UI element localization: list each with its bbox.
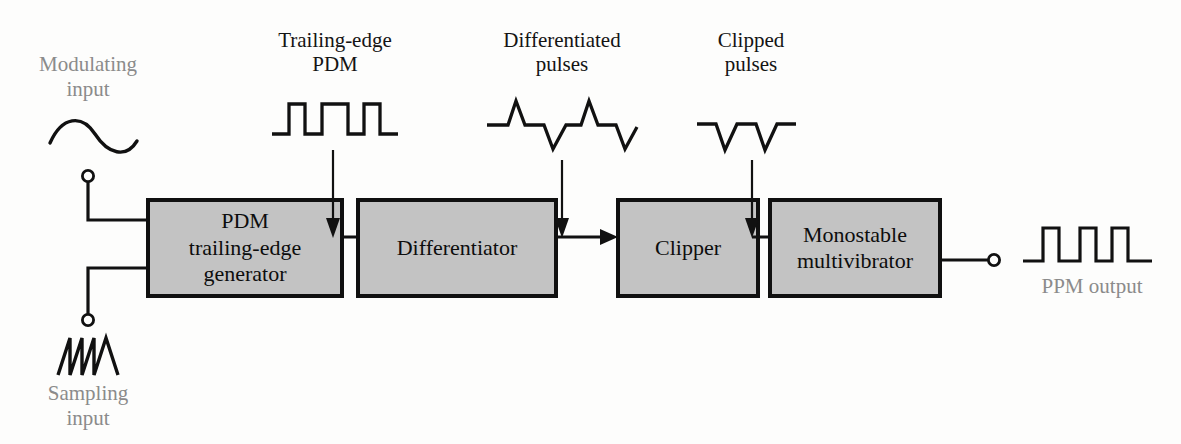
trailing-edge-pdm-label: Trailing-edge PDM [252,28,418,77]
sampling-input-terminal [82,314,93,325]
block-differentiator[interactable] [358,200,556,296]
block-diagram-canvas: Modulating input Sampling input Trailing… [0,0,1181,444]
modulating-input-terminal [82,170,93,181]
sampling-input-label: Sampling input [13,381,163,431]
clipped-pulses-waveform-icon [697,124,796,150]
differentiated-pulses-label: Differentiated pulses [472,28,652,77]
block-clipper[interactable] [618,200,758,296]
link-differentiator-to-clipper-arrowhead [600,229,618,245]
ppm-output-label: PPM output [1018,274,1166,299]
trailing-edge-pdm-waveform-icon [272,104,398,134]
ppm-output-waveform-icon [1023,228,1152,261]
clipped-pulses-label: Clipped pulses [676,28,826,77]
sine-wave-icon [50,121,137,152]
block-monostable[interactable] [770,200,940,296]
block-pdm-generator[interactable] [148,200,342,296]
differentiated-pulses-waveform-icon [487,101,637,149]
modulating-input-label: Modulating input [8,52,168,102]
ppm-output-terminal [988,254,999,265]
sawtooth-wave-icon [58,338,118,375]
